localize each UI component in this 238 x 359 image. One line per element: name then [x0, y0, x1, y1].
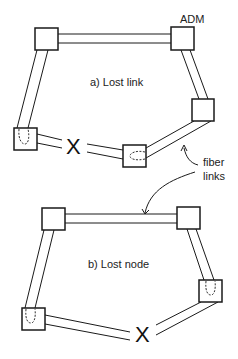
panel-a-caption: a) Lost link: [90, 77, 143, 88]
panel-b-links: [25, 214, 218, 340]
fiber-links-label-line1: fiber: [203, 157, 224, 168]
fiber-links-label-line2: links: [203, 171, 225, 182]
adm-node-a-right: [192, 99, 214, 121]
failure-mark-lost-link: X: [66, 136, 81, 158]
panel-b-caption: b) Lost node: [88, 259, 149, 270]
annotation-arrow-a: [184, 148, 198, 165]
adm-node-b-top-left: [42, 208, 65, 230]
fiber-link-a-broken-left: [37, 134, 62, 148]
adm-node-b-bottom-left: [22, 308, 45, 330]
adm-node-b-right: [199, 280, 222, 302]
fiber-link-a-left: [17, 50, 48, 128]
fiber-link-a-lower-right: [146, 121, 211, 158]
fiber-link-a-top: [58, 34, 171, 43]
fiber-link-b-right: [187, 229, 214, 280]
fiber-link-a-broken-right: [87, 144, 123, 159]
fiber-link-b-broken-right: [156, 302, 218, 335]
fiber-link-b-left: [25, 230, 54, 308]
adm-node-a-bottom-mid: [123, 145, 146, 167]
adm-node-b-top-right: [177, 207, 200, 229]
failure-mark-lost-node: X: [135, 324, 150, 346]
adm-node-a-top-right: [171, 27, 194, 50]
fiber-link-b-top: [65, 214, 177, 223]
adm-label: ADM: [180, 14, 204, 25]
panel-a-links: [17, 34, 211, 159]
fiber-link-b-broken-left: [45, 315, 130, 340]
fiber-link-a-right: [181, 50, 208, 99]
adm-node-a-bottom-left: [14, 128, 37, 150]
adm-node-a-top-left: [35, 28, 58, 50]
